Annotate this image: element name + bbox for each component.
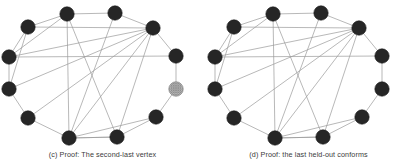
graph-node — [108, 6, 122, 20]
graph-diagram-d — [206, 0, 411, 148]
graph-edge — [215, 56, 382, 57]
graph-node — [352, 21, 366, 35]
graph-edge — [273, 14, 275, 138]
graph-edge — [273, 14, 323, 137]
panel-caption-c: (c) Proof: The second-last vertex — [0, 150, 205, 159]
graph-node — [21, 111, 35, 125]
graph-node — [208, 50, 222, 64]
node-group-d — [208, 6, 389, 145]
graph-edge — [117, 28, 153, 137]
graph-node — [60, 7, 74, 21]
graph-node — [227, 111, 241, 125]
graph-node — [146, 21, 160, 35]
panel-caption-d: (d) Proof: the last held-out conforms — [206, 150, 411, 159]
graph-node — [266, 7, 280, 21]
graph-edge — [28, 27, 153, 28]
graph-edge — [323, 28, 359, 137]
graph-node — [355, 110, 369, 124]
graph-edge — [215, 14, 273, 57]
graph-node — [268, 131, 282, 145]
graph-node — [2, 50, 16, 64]
graph-edge — [9, 56, 176, 57]
node-group-c — [2, 6, 183, 145]
graph-edge — [234, 27, 359, 28]
graph-edge — [67, 14, 69, 138]
graph-node — [314, 6, 328, 20]
graph-node — [110, 130, 124, 144]
graph-node — [208, 82, 222, 96]
graph-node — [2, 82, 16, 96]
graph-node — [21, 20, 35, 34]
graph-edge — [9, 14, 67, 57]
figure-root: (c) Proof: The second-last vertex (d) Pr… — [0, 0, 411, 165]
graph-node — [316, 130, 330, 144]
graph-node — [149, 110, 163, 124]
graph-edge — [67, 14, 117, 137]
graph-node — [227, 20, 241, 34]
graph-panel-c: (c) Proof: The second-last vertex — [0, 0, 205, 165]
graph-panel-d: (d) Proof: the last held-out conforms — [206, 0, 411, 165]
graph-node — [375, 82, 389, 96]
graph-diagram-c — [0, 0, 205, 148]
graph-node — [169, 49, 183, 63]
graph-node — [62, 131, 76, 145]
graph-node — [375, 49, 389, 63]
graph-node-highlighted — [169, 82, 183, 96]
